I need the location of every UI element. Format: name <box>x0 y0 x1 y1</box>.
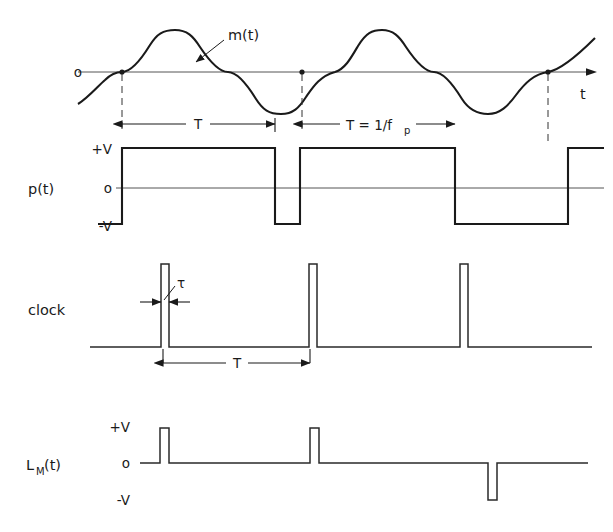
pulse-plus-v-label: +V <box>91 141 112 157</box>
timing-diagram-figure: m(t) o t T T = 1/f p p(t) +V o -V <box>0 0 613 532</box>
crossing-dot-2 <box>299 69 304 74</box>
tau-label: τ <box>177 275 185 291</box>
crossing-dot-3 <box>545 69 550 74</box>
panel-lm: L M (t) +V o -V <box>26 419 588 508</box>
pulse-row-label: p(t) <box>28 181 54 197</box>
lm-row-label-tail: (t) <box>44 457 61 473</box>
clock-row-label: clock <box>28 302 66 318</box>
message-signal-label: m(t) <box>228 27 259 43</box>
panel-pulse: p(t) +V o -V <box>28 141 604 234</box>
pulse-waveform <box>98 148 604 224</box>
dimension-T3-label: T <box>232 355 242 371</box>
pulse-zero-label: o <box>104 180 112 196</box>
panel-message: m(t) o t <box>74 27 597 142</box>
lm-zero-label: o <box>122 455 130 471</box>
message-zero-label: o <box>74 64 82 80</box>
pulse-minus-v-label: -V <box>99 218 113 234</box>
time-axis-label: t <box>580 86 586 102</box>
clock-waveform <box>90 264 592 347</box>
time-axis-arrowhead <box>586 68 597 76</box>
lm-plus-v-label: +V <box>109 419 130 435</box>
period-dimensions-top: T T = 1/f p <box>122 113 455 136</box>
lm-minus-v-label: -V <box>117 492 131 508</box>
message-label-leader <box>196 40 224 62</box>
panel-clock: clock τ T <box>28 264 592 372</box>
crossing-dot-1 <box>119 69 124 74</box>
dimension-T1-label: T <box>193 116 203 132</box>
dimension-T2-label-subscript: p <box>404 125 410 136</box>
lm-row-label-base: L <box>26 457 34 473</box>
dimension-T2-label: T = 1/f <box>345 117 393 133</box>
lm-waveform <box>140 428 588 500</box>
